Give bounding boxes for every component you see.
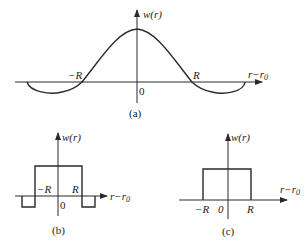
origin-label: 0 xyxy=(218,203,224,215)
x-axis-label: r−r0 xyxy=(110,190,130,204)
y-axis-label: w(r) xyxy=(231,131,250,144)
panel-a: w(r) r−r0 −R R 0 (a) xyxy=(15,8,268,120)
origin-label: 0 xyxy=(60,199,66,211)
caption-a: (a) xyxy=(129,107,142,120)
panel-c: w(r) r−r0 −R R 0 (c) xyxy=(179,131,300,238)
y-axis-label: w(r) xyxy=(62,131,81,144)
tick-R: R xyxy=(246,203,254,215)
x-axis-label: r−r0 xyxy=(280,183,300,197)
origin-label: 0 xyxy=(139,85,145,97)
mexican-hat-curve xyxy=(27,29,245,93)
tick-neg-R: −R xyxy=(195,203,209,215)
diagram-canvas: w(r) r−r0 −R R 0 (a) w(r) r−r0 −R R 0 (b… xyxy=(0,0,305,250)
tick-neg-R: −R xyxy=(68,69,82,81)
y-axis-label: w(r) xyxy=(143,8,162,21)
tick-R: R xyxy=(71,183,79,195)
tick-neg-R: −R xyxy=(37,183,51,195)
rect-pulse xyxy=(203,169,251,200)
tick-R: R xyxy=(192,69,200,81)
x-axis-label: r−r0 xyxy=(248,68,268,82)
panel-b: w(r) r−r0 −R R 0 (b) xyxy=(15,131,130,237)
caption-b: (b) xyxy=(52,224,65,237)
caption-c: (c) xyxy=(222,225,235,238)
